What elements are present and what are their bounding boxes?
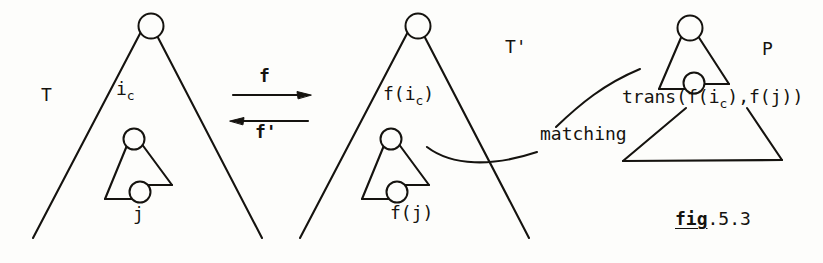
- figure-caption-number: .5.3: [708, 208, 751, 229]
- label-node-f-ic-prefix: f(i: [383, 83, 416, 104]
- label-node-f-ic-suffix: ): [423, 83, 434, 104]
- tree-Tprime-subtree-top-node: [381, 129, 402, 150]
- label-arrow-forward-f: f: [259, 67, 270, 85]
- label-node-trans-prefix: trans(f(i: [622, 86, 720, 107]
- label-tree-T: T: [41, 86, 52, 104]
- tree-T-subtree-left-leg: [105, 143, 128, 199]
- figure-5-3: T T' P f f' ic j f(ic) f(j) matching tra…: [0, 0, 823, 263]
- label-arrow-backward-f-prime: f': [255, 123, 277, 141]
- pattern-P-body-right-leg: [747, 108, 782, 160]
- tree-Tprime-subtree-right-leg: [398, 143, 429, 185]
- tree-T-subtree-bottom-node: [130, 182, 151, 203]
- tree-T-root-circle: [139, 14, 164, 39]
- tree-Tprime-subtree-bottom-node: [387, 182, 408, 203]
- label-node-trans-suffix: ),f(j)): [727, 86, 803, 107]
- tree-Tprime-root-circle: [406, 14, 431, 39]
- label-node-j: j: [133, 205, 144, 223]
- figure-caption-word: fig: [675, 208, 708, 229]
- label-node-trans: trans(f(ic),f(j)): [622, 88, 803, 111]
- label-matching: matching: [540, 125, 627, 143]
- label-node-f-j: f(j): [390, 204, 433, 222]
- arrow-backward-head: [230, 118, 244, 125]
- pattern-P-body-left-leg: [623, 108, 686, 161]
- arrow-forward-head: [297, 92, 311, 99]
- tree-T-subtree-top-node: [124, 129, 145, 150]
- label-node-ic: ic: [116, 80, 135, 103]
- pattern-P-body-trapezoid: [623, 108, 782, 161]
- pattern-P-body-base: [623, 160, 782, 161]
- tree-T-outline: [33, 26, 262, 238]
- tree-Tprime-right-leg: [419, 26, 529, 238]
- tree-T-subtree-right-leg: [141, 143, 172, 185]
- pattern-P-root-circle: [678, 16, 703, 41]
- tree-T-right-leg: [152, 26, 262, 238]
- label-tree-T-prime: T': [505, 38, 527, 56]
- label-node-ic-subscript: c: [127, 88, 135, 103]
- label-node-ic-base: i: [116, 78, 127, 99]
- label-node-f-ic: f(ic): [383, 85, 434, 108]
- matching-curve: [427, 69, 640, 162]
- arrow-group: [230, 92, 311, 125]
- pattern-P-top-left-leg: [659, 33, 683, 89]
- figure-caption: fig.5.3: [675, 210, 751, 228]
- tree-Tprime-subtree-left-leg: [362, 143, 385, 199]
- label-pattern-P: P: [762, 40, 773, 58]
